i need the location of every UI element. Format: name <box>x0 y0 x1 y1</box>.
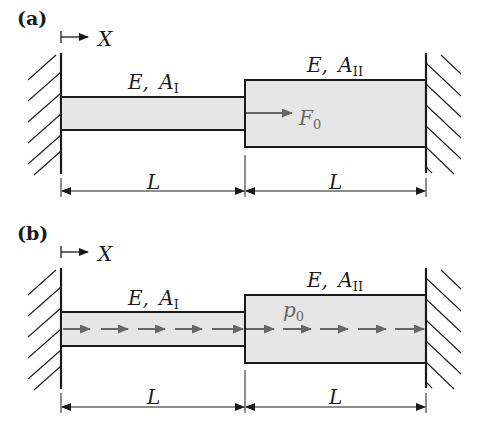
x-axis-label: X <box>96 242 113 266</box>
panel-label: (a) <box>17 7 47 29</box>
x-axis-indicator: X <box>61 27 113 51</box>
segment-2-label: E, AII <box>306 268 363 294</box>
panel-a: (a) X <box>17 7 461 197</box>
left-fixed-support <box>28 53 61 175</box>
x-axis-label: X <box>96 27 113 51</box>
right-fixed-support <box>426 53 461 174</box>
length-label-2: L <box>328 385 342 409</box>
panel-b: (b) X <box>17 222 461 413</box>
length-label-1: L <box>146 170 160 194</box>
bar-segment-1 <box>61 97 245 130</box>
bar-diagram-figure: (a) X <box>0 0 489 427</box>
panel-label: (b) <box>17 222 48 244</box>
segment-1-label: E, AI <box>127 70 179 96</box>
x-axis-indicator: X <box>61 242 113 266</box>
left-fixed-support <box>28 268 61 390</box>
length-label-1: L <box>146 385 160 409</box>
length-label-2: L <box>328 170 342 194</box>
dimension-lines: L L <box>61 155 426 197</box>
dimension-lines: L L <box>61 370 426 413</box>
segment-2-label: E, AII <box>306 53 363 79</box>
segment-1-label: E, AI <box>127 286 179 312</box>
right-fixed-support <box>426 268 461 389</box>
